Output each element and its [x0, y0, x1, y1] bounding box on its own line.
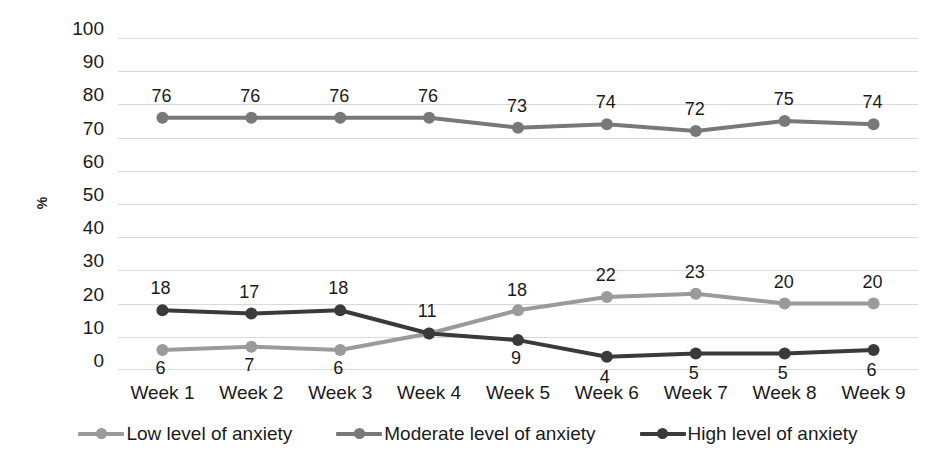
series-marker: [156, 344, 168, 356]
series-marker: [690, 125, 702, 137]
series-marker: [245, 308, 257, 320]
legend-marker-icon: [640, 426, 686, 442]
data-label: 73: [507, 97, 527, 115]
data-label: 74: [863, 93, 883, 111]
y-tick-label: 10: [48, 317, 104, 336]
series-marker: [868, 118, 880, 130]
series-marker: [512, 122, 524, 134]
data-label: 23: [685, 263, 705, 281]
y-tick-label: 60: [48, 151, 104, 170]
series-marker: [423, 327, 435, 339]
x-axis-tick-labels: Week 1Week 2Week 3Week 4Week 5Week 6Week…: [118, 382, 918, 410]
x-tick-label: Week 7: [664, 382, 728, 405]
series-marker: [601, 291, 613, 303]
legend-label: Low level of anxiety: [126, 424, 292, 443]
data-label: 76: [151, 87, 171, 105]
data-label: 18: [328, 279, 348, 297]
data-label: 76: [418, 87, 438, 105]
series-marker: [779, 298, 791, 310]
series-marker: [690, 347, 702, 359]
x-tick-label: Week 9: [842, 382, 906, 405]
series-marker: [334, 344, 346, 356]
data-label: 76: [329, 87, 349, 105]
x-tick-label: Week 3: [308, 382, 372, 405]
y-tick-label: 100: [48, 19, 104, 38]
series-marker: [601, 351, 613, 363]
x-tick-label: Week 8: [753, 382, 817, 405]
series-marker: [779, 347, 791, 359]
data-label: 74: [596, 93, 616, 111]
series-marker: [156, 112, 168, 124]
x-tick-label: Week 5: [486, 382, 550, 405]
y-tick-label: 20: [48, 284, 104, 303]
data-label: 75: [774, 90, 794, 108]
series-marker: [245, 112, 257, 124]
y-tick-label: 80: [48, 85, 104, 104]
legend-label: High level of anxiety: [688, 424, 858, 443]
y-axis-tick-labels: 1009080706050403020100: [48, 28, 104, 380]
series-marker: [690, 288, 702, 300]
data-label: 22: [596, 266, 616, 284]
y-tick-label: 0: [48, 351, 104, 370]
data-label: 6: [867, 361, 877, 379]
data-label: 6: [333, 359, 343, 377]
plot-area: 6761822232020767676767374727574181718119…: [118, 38, 918, 370]
series-marker: [512, 334, 524, 346]
data-label: 7: [244, 356, 254, 374]
y-tick-label: 30: [48, 251, 104, 270]
y-tick-label: 70: [48, 118, 104, 137]
y-tick-label: 90: [48, 52, 104, 71]
data-label: 76: [240, 87, 260, 105]
legend-item[interactable]: High level of anxiety: [640, 424, 858, 443]
data-label: 20: [774, 273, 794, 291]
data-label: 9: [511, 349, 521, 367]
legend-marker-icon: [78, 426, 124, 442]
x-tick-label: Week 1: [130, 382, 194, 405]
data-label: 17: [239, 283, 259, 301]
series-marker: [601, 118, 613, 130]
data-label: 18: [150, 279, 170, 297]
data-label: 6: [155, 359, 165, 377]
data-label: 72: [685, 100, 705, 118]
y-tick-label: 50: [48, 185, 104, 204]
data-label: 18: [507, 281, 527, 299]
series-marker: [245, 341, 257, 353]
series-marker: [868, 298, 880, 310]
anxiety-level-line-chart: % 1009080706050403020100 676182223202076…: [0, 0, 936, 475]
data-label: 11: [418, 302, 437, 320]
data-label: 5: [778, 364, 788, 382]
y-tick-label: 40: [48, 218, 104, 237]
legend-label: Moderate level of anxiety: [384, 424, 595, 443]
series-layer: [118, 38, 918, 370]
x-tick-label: Week 2: [219, 382, 283, 405]
data-label: 5: [689, 364, 699, 382]
series-marker: [779, 115, 791, 127]
legend-item[interactable]: Low level of anxiety: [78, 424, 292, 443]
series-marker: [334, 304, 346, 316]
series-marker: [423, 112, 435, 124]
series-marker: [334, 112, 346, 124]
series-marker: [156, 304, 168, 316]
series-marker: [512, 304, 524, 316]
legend-marker-icon: [336, 426, 382, 442]
legend-item[interactable]: Moderate level of anxiety: [336, 424, 595, 443]
x-tick-label: Week 4: [397, 382, 461, 405]
x-tick-label: Week 6: [575, 382, 639, 405]
chart-legend: Low level of anxietyModerate level of an…: [0, 424, 936, 443]
series-marker: [868, 344, 880, 356]
data-label: 20: [863, 273, 883, 291]
